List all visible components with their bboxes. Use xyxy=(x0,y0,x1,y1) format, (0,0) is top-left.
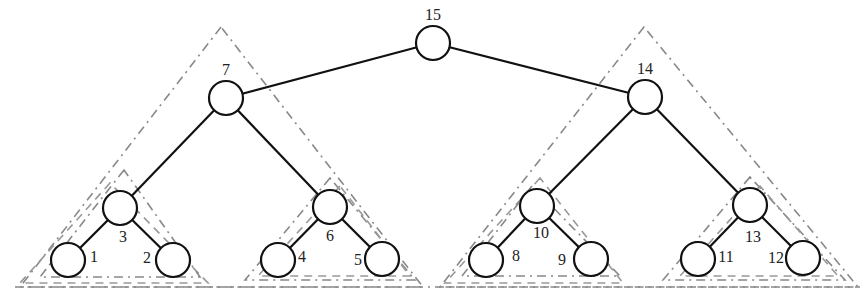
node-5 xyxy=(365,242,399,276)
node-8 xyxy=(469,243,503,277)
node-label-11: 11 xyxy=(718,249,733,265)
node-label-12: 12 xyxy=(768,250,784,266)
node-1 xyxy=(51,243,85,277)
edge-14-10 xyxy=(537,97,645,206)
tree-edges xyxy=(68,43,803,260)
node-label-6: 6 xyxy=(326,228,334,244)
node-13 xyxy=(733,188,767,222)
tree-graphic xyxy=(0,0,865,301)
node-label-14: 14 xyxy=(637,61,653,77)
node-10 xyxy=(520,189,554,223)
node-label-3: 3 xyxy=(119,229,127,245)
node-4 xyxy=(261,243,295,277)
node-15 xyxy=(416,26,450,60)
node-12 xyxy=(786,241,820,275)
node-14 xyxy=(628,80,662,114)
edge-15-7 xyxy=(226,43,433,98)
node-label-9: 9 xyxy=(558,252,566,268)
edge-7-3 xyxy=(120,98,226,208)
node-7 xyxy=(209,81,243,115)
edge-15-14 xyxy=(433,43,645,97)
node-label-7: 7 xyxy=(222,62,230,78)
node-label-8: 8 xyxy=(512,248,520,264)
node-2 xyxy=(156,243,190,277)
edge-7-6 xyxy=(226,98,330,207)
node-label-13: 13 xyxy=(745,229,761,245)
node-label-5: 5 xyxy=(354,252,362,268)
node-label-1: 1 xyxy=(90,249,98,265)
node-label-10: 10 xyxy=(533,225,549,241)
tree-nodes xyxy=(51,26,820,277)
tree-diagram: 157143610131245891112 xyxy=(0,0,865,301)
node-3 xyxy=(103,191,137,225)
node-label-15: 15 xyxy=(425,7,441,23)
node-label-2: 2 xyxy=(143,250,151,266)
node-11 xyxy=(681,242,715,276)
node-6 xyxy=(313,190,347,224)
node-label-4: 4 xyxy=(298,249,306,265)
edge-14-13 xyxy=(645,97,750,205)
node-9 xyxy=(574,242,608,276)
